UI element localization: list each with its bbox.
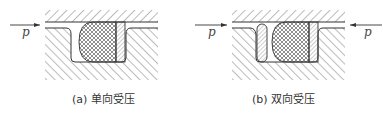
seal-diagrams: [0, 0, 383, 115]
figure-a: [10, 10, 158, 80]
o-ring-section: [79, 22, 116, 62]
caption-b: (b) 双向受压: [252, 90, 315, 106]
caption-a: (a) 单向受压: [72, 90, 135, 106]
backup-ring-right: [309, 22, 318, 62]
figure-b: [195, 10, 382, 80]
pressure-label: p: [364, 25, 372, 39]
pressure-label: p: [22, 25, 30, 39]
backup-ring-left: [257, 24, 267, 62]
arrow-right-icon: [221, 23, 227, 27]
pressure-label: p: [208, 25, 216, 39]
backup-ring: [116, 22, 125, 62]
o-ring-section: [272, 22, 309, 62]
arrow-left-icon: [350, 23, 356, 27]
upper-body-hatch: [45, 10, 158, 22]
arrow-right-icon: [34, 23, 40, 27]
